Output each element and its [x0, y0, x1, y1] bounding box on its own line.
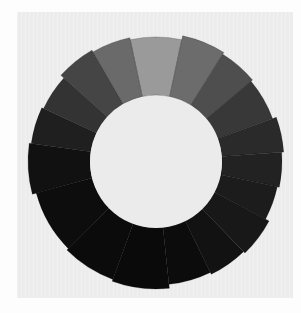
value-wheel: [0, 0, 301, 313]
center-hole: [90, 96, 222, 228]
